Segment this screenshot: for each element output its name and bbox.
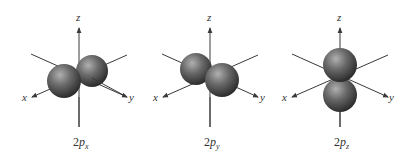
orbital-caption: 2px xyxy=(73,135,89,151)
z-axis-label: z xyxy=(336,11,342,23)
orbital-lobe-front xyxy=(205,63,239,97)
panel-2px: z x y 2px xyxy=(21,11,134,151)
orbital-lobe-front xyxy=(47,64,81,98)
y-axis-label: y xyxy=(128,91,134,103)
y-axis-label: y xyxy=(259,91,265,103)
x-axis-label: x xyxy=(152,91,158,103)
orbital-lobe-top xyxy=(323,48,357,82)
panel-2py: z x y 2py xyxy=(152,11,265,151)
z-axis-label: z xyxy=(206,11,212,23)
x-axis-label: x xyxy=(21,91,27,103)
y-axis-label: y xyxy=(388,91,394,103)
orbital-caption: 2pz xyxy=(334,135,350,151)
x-axis-label: x xyxy=(281,91,287,103)
p-orbitals-diagram: z x y 2px z x y 2py z x y 2pz xyxy=(0,0,416,157)
orbital-caption: 2py xyxy=(204,135,220,151)
orbital-lobe-bottom xyxy=(323,78,357,112)
z-axis-label: z xyxy=(75,11,81,23)
panel-2pz: z x y 2pz xyxy=(281,11,394,151)
